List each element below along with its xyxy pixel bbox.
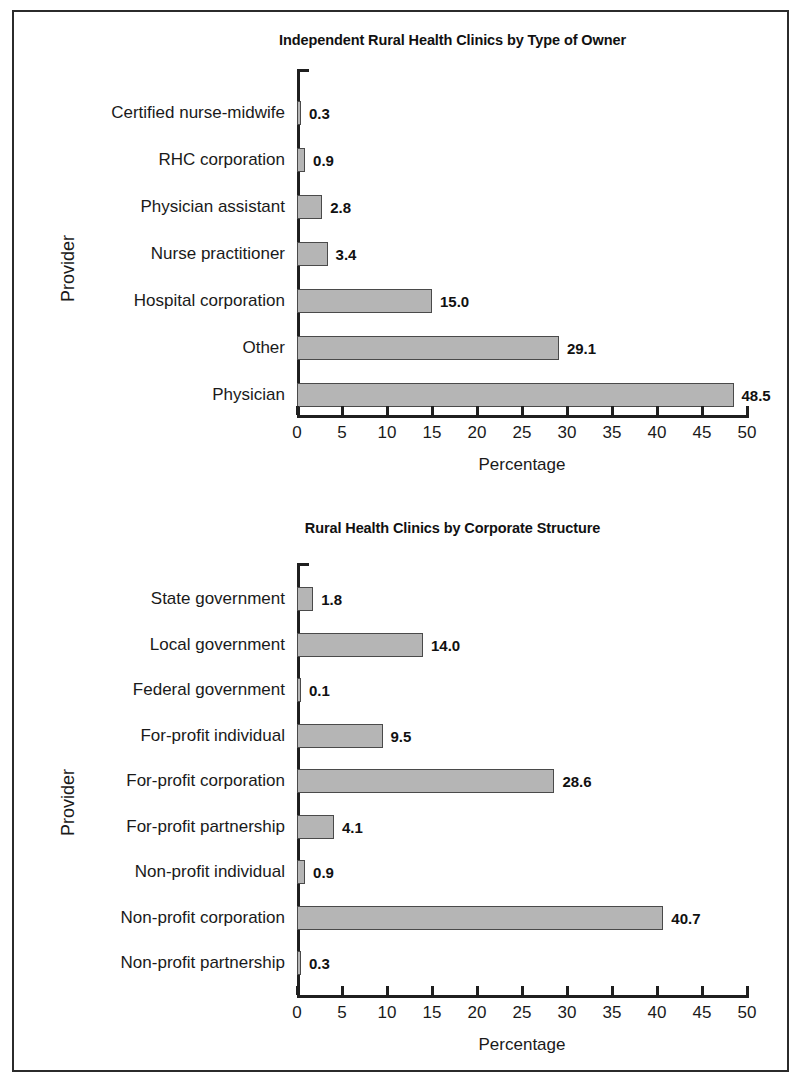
bar-value-label: 14.0 xyxy=(431,636,460,653)
bar[interactable] xyxy=(297,951,301,975)
bar[interactable] xyxy=(297,336,559,360)
category-label: Non-profit individual xyxy=(135,862,285,882)
bar-value-label: 0.3 xyxy=(309,105,330,122)
x-tick-mark xyxy=(386,406,389,415)
x-tick-label: 5 xyxy=(337,423,346,443)
category-label: For-profit corporation xyxy=(126,771,285,791)
x-tick-mark xyxy=(701,406,704,415)
bar[interactable] xyxy=(297,678,301,702)
x-tick-mark xyxy=(611,406,614,415)
x-tick-mark xyxy=(476,986,479,995)
bar-value-label: 48.5 xyxy=(742,387,771,404)
bar[interactable] xyxy=(297,383,734,407)
chart-panel-owner-type: Independent Rural Health Clinics by Type… xyxy=(14,12,791,506)
category-label: Non-profit corporation xyxy=(121,908,285,928)
x-tick-mark xyxy=(656,406,659,415)
bar-row: For-profit corporation28.6 xyxy=(297,769,747,793)
bar[interactable] xyxy=(297,587,313,611)
bar[interactable] xyxy=(297,769,554,793)
bar-row: Physician assistant2.8 xyxy=(297,195,747,219)
x-tick-label: 40 xyxy=(648,423,667,443)
bar-row: Other29.1 xyxy=(297,336,747,360)
x-tick-label: 40 xyxy=(648,1003,667,1023)
x-tick-label: 5 xyxy=(337,1003,346,1023)
bar[interactable] xyxy=(297,289,432,313)
bar-value-label: 28.6 xyxy=(562,773,591,790)
category-label: Physician xyxy=(212,385,285,405)
bar[interactable] xyxy=(297,148,305,172)
x-tick-mark xyxy=(341,406,344,415)
x-tick-mark xyxy=(746,986,749,995)
bar-row: State government1.8 xyxy=(297,587,747,611)
category-label: Federal government xyxy=(133,680,285,700)
x-tick-label: 10 xyxy=(378,1003,397,1023)
bar-row: For-profit partnership4.1 xyxy=(297,815,747,839)
bar-row: Federal government0.1 xyxy=(297,678,747,702)
x-tick-label: 45 xyxy=(693,423,712,443)
bar-row: Certified nurse-midwife0.3 xyxy=(297,101,747,125)
bar[interactable] xyxy=(297,101,301,125)
category-label: RHC corporation xyxy=(158,150,285,170)
bar-row: Non-profit partnership0.3 xyxy=(297,951,747,975)
x-tick-label: 15 xyxy=(423,1003,442,1023)
x-tick-label: 20 xyxy=(468,1003,487,1023)
bar-value-label: 4.1 xyxy=(342,818,363,835)
bar[interactable] xyxy=(297,815,334,839)
bar-row: Non-profit corporation40.7 xyxy=(297,906,747,930)
x-tick-mark xyxy=(431,406,434,415)
x-tick-mark xyxy=(296,986,299,995)
bar[interactable] xyxy=(297,906,663,930)
x-tick-label: 15 xyxy=(423,423,442,443)
y-axis-title: Provider xyxy=(58,235,79,302)
bar-row: RHC corporation0.9 xyxy=(297,148,747,172)
bar[interactable] xyxy=(297,242,328,266)
bar-row: For-profit individual9.5 xyxy=(297,724,747,748)
bar-row: Local government14.0 xyxy=(297,633,747,657)
x-tick-mark xyxy=(746,406,749,415)
x-axis-title: Percentage xyxy=(479,1035,566,1055)
bar[interactable] xyxy=(297,633,423,657)
bar-row: Physician48.5 xyxy=(297,383,747,407)
bar-row: Hospital corporation15.0 xyxy=(297,289,747,313)
category-label: Local government xyxy=(150,635,285,655)
x-tick-mark xyxy=(611,986,614,995)
x-tick-mark xyxy=(521,986,524,995)
category-label: For-profit partnership xyxy=(126,817,285,837)
category-label: For-profit individual xyxy=(140,726,285,746)
x-tick-label: 30 xyxy=(558,1003,577,1023)
category-label: Physician assistant xyxy=(140,197,285,217)
bar-value-label: 9.5 xyxy=(391,727,412,744)
chart-title: Rural Health Clinics by Corporate Struct… xyxy=(14,520,791,536)
x-tick-mark xyxy=(656,986,659,995)
bar-value-label: 40.7 xyxy=(671,909,700,926)
y-axis-title: Provider xyxy=(58,769,79,836)
x-tick-label: 45 xyxy=(693,1003,712,1023)
x-tick-mark xyxy=(566,986,569,995)
bar-value-label: 0.3 xyxy=(309,955,330,972)
bar-value-label: 1.8 xyxy=(321,591,342,608)
y-axis-cap xyxy=(297,69,309,72)
x-tick-label: 20 xyxy=(468,423,487,443)
x-tick-mark xyxy=(296,406,299,415)
x-axis-line xyxy=(297,995,749,998)
x-tick-mark xyxy=(701,986,704,995)
bar[interactable] xyxy=(297,860,305,884)
x-tick-label: 35 xyxy=(603,1003,622,1023)
x-tick-mark xyxy=(476,406,479,415)
bar[interactable] xyxy=(297,724,383,748)
plot-area: State government1.8Local government14.0F… xyxy=(297,563,747,995)
bar-value-label: 0.1 xyxy=(309,682,330,699)
bar[interactable] xyxy=(297,195,322,219)
x-tick-label: 50 xyxy=(738,1003,757,1023)
category-label: State government xyxy=(151,589,285,609)
category-label: Non-profit partnership xyxy=(121,953,285,973)
x-tick-label: 0 xyxy=(292,1003,301,1023)
bar-row: Nurse practitioner3.4 xyxy=(297,242,747,266)
y-axis-cap xyxy=(297,563,309,566)
chart-panel-corporate-structure: Rural Health Clinics by Corporate Struct… xyxy=(14,506,791,1072)
category-label: Other xyxy=(242,338,285,358)
bar-value-label: 0.9 xyxy=(313,152,334,169)
x-tick-label: 10 xyxy=(378,423,397,443)
chart-title: Independent Rural Health Clinics by Type… xyxy=(14,32,791,48)
x-tick-label: 0 xyxy=(292,423,301,443)
